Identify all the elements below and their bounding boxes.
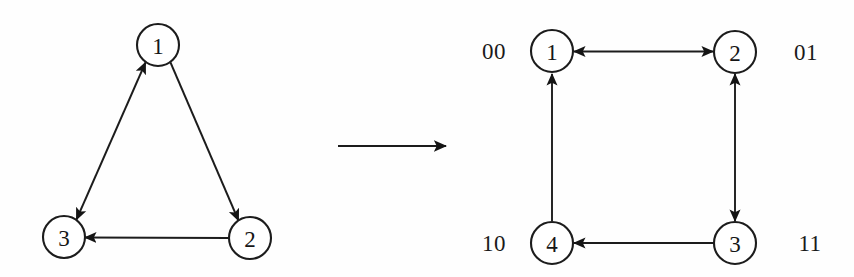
node-left-3-label: 3 <box>58 226 70 251</box>
node-right-3-label: 3 <box>729 232 741 257</box>
node-right-4: 4 <box>531 222 573 264</box>
code-label-10: 10 <box>482 231 506 256</box>
node-left-3: 3 <box>43 216 85 258</box>
graph-transformation-figure: 1 2 3 <box>0 0 854 277</box>
node-right-1-label: 1 <box>546 40 558 65</box>
edge-left-1-and-3 <box>77 63 146 220</box>
code-label-00: 00 <box>482 39 506 64</box>
node-right-2-label: 2 <box>729 41 741 66</box>
code-label-11: 11 <box>798 231 821 256</box>
edge-left-1-to-2 <box>171 63 239 221</box>
node-left-1: 1 <box>137 24 179 66</box>
right-graph: 1 2 3 4 00 01 10 11 <box>482 30 822 264</box>
node-left-2-label: 2 <box>244 227 256 252</box>
left-graph: 1 2 3 <box>43 24 271 259</box>
node-right-3: 3 <box>714 222 756 264</box>
node-right-4-label: 4 <box>546 232 558 257</box>
node-left-2: 2 <box>229 217 271 259</box>
code-label-01: 01 <box>794 40 818 65</box>
node-right-1: 1 <box>531 30 573 72</box>
edge-left-2-to-3 <box>85 238 229 239</box>
figure-container: 1 2 3 <box>0 0 854 277</box>
node-right-2: 2 <box>714 31 756 73</box>
node-left-1-label: 1 <box>152 34 164 59</box>
